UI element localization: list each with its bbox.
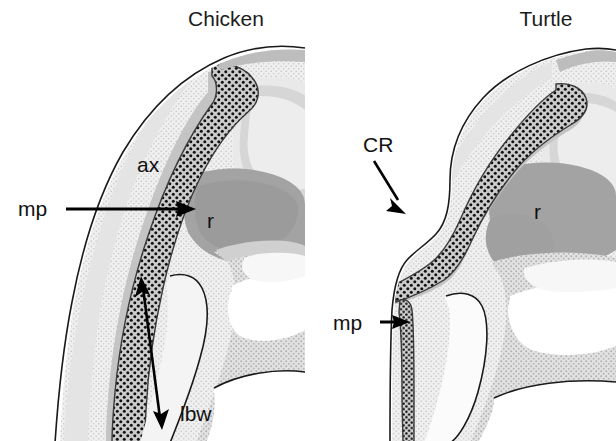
chicken-label-r: r xyxy=(207,209,214,232)
turtle-label-r: r xyxy=(534,200,541,223)
comparative-embryo-figure: ax r mp lbw Chicken xyxy=(0,0,616,441)
chicken-label-lbw: lbw xyxy=(180,402,212,425)
turtle-gut-lumen xyxy=(508,283,616,355)
turtle-panel-title: Turtle xyxy=(520,7,573,30)
chicken-label-ax: ax xyxy=(137,153,160,176)
turtle-label-mp: mp xyxy=(333,311,362,334)
turtle-label-cr: CR xyxy=(363,133,393,156)
chicken-label-mp: mp xyxy=(18,197,47,220)
chicken-panel-title: Chicken xyxy=(188,7,264,30)
